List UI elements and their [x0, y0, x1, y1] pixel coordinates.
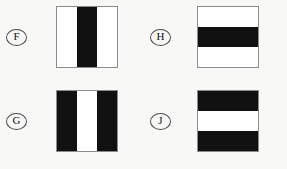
band-left-black	[57, 91, 77, 151]
answer-option-g[interactable]: G	[6, 90, 118, 152]
option-label-g: G	[6, 113, 27, 130]
band-bottom-black	[198, 131, 258, 151]
band-top-white	[198, 7, 258, 27]
option-letter-g: G	[13, 115, 21, 127]
answer-option-f[interactable]: F	[6, 6, 118, 68]
pattern-swatch-f[interactable]	[56, 6, 118, 68]
band-right-black	[97, 91, 117, 151]
answer-option-h[interactable]: H	[150, 6, 259, 68]
pattern-swatch-h[interactable]	[197, 6, 259, 68]
option-label-j: J	[150, 113, 171, 130]
pattern-swatch-g[interactable]	[56, 90, 118, 152]
pattern-swatch-j[interactable]	[197, 90, 259, 152]
band-middle-white	[198, 111, 258, 131]
band-center-black	[77, 7, 97, 67]
option-letter-f: F	[13, 31, 19, 43]
band-right-white	[97, 7, 117, 67]
option-label-h: H	[150, 29, 171, 46]
band-bottom-white	[198, 47, 258, 67]
band-top-black	[198, 91, 258, 111]
answer-options-figure: F G H J	[0, 0, 287, 169]
option-letter-j: J	[158, 115, 162, 127]
band-left-white	[57, 7, 77, 67]
option-letter-h: H	[157, 31, 165, 43]
band-center-white	[77, 91, 97, 151]
answer-option-j[interactable]: J	[150, 90, 259, 152]
option-label-f: F	[6, 29, 27, 46]
band-middle-black	[198, 27, 258, 47]
